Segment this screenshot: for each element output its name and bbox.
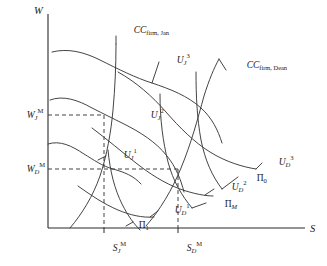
leader-u-jan-3 (152, 62, 159, 83)
label-pi-m: ΠM (208, 199, 249, 211)
svg-text:Π1: Π1 (122, 220, 161, 232)
cc-jan-sub: firm, Jan (146, 29, 170, 36)
ujan1-sub: J (131, 154, 135, 161)
label-pi-1: Π1 (122, 220, 161, 232)
wjm-sup: M (37, 107, 43, 114)
cc-dean-base: CC (247, 60, 260, 70)
svg-text:CCfirm, Dean: CCfirm, Dean (230, 60, 299, 72)
x-tick-label-sjm: SJM (96, 238, 138, 254)
sjm-sup: M (120, 240, 126, 247)
wdm-sub: D (34, 168, 40, 175)
curve-u-dean-2 (92, 128, 213, 196)
svg-text:UJ3: UJ3 (160, 50, 202, 66)
svg-text:SJM: SJM (96, 238, 138, 254)
svg-text:UD3: UD3 (262, 152, 305, 168)
leader-cc-firm-dean (219, 59, 226, 70)
svg-text:UJ2: UJ2 (134, 105, 176, 121)
y-axis-label: W (34, 5, 44, 16)
ujan1-sup: 1 (133, 147, 136, 154)
sdm-sup: M (196, 240, 202, 247)
ujan2-sup: 2 (160, 107, 163, 114)
curve-cc-firm-jan (70, 44, 116, 228)
label-u-dean-1: UD1 (158, 200, 201, 216)
wjm-sub: J (35, 114, 39, 121)
pi0-sub: 0 (264, 177, 268, 184)
x-axis-label: S (310, 223, 316, 234)
svg-text:CCfirm, Jan: CCfirm, Jan (117, 25, 181, 37)
label-u-dean-3: UD3 (262, 152, 305, 168)
ujan3-sup: 3 (186, 52, 190, 59)
leader-u-dean-2 (205, 189, 214, 195)
ujan3-sub: J (184, 59, 188, 66)
udean1-sub: D (181, 209, 187, 216)
label-cc-firm-dean: CCfirm, Dean (230, 60, 299, 72)
svg-text:UD1: UD1 (158, 200, 201, 216)
diagram-canvas: W S WJM WDM SJM SDM CCfirm, Jan CCfirm, … (0, 0, 327, 266)
y-tick-label-wdm: WDM (10, 159, 57, 175)
x-tick-label-sdm: SDM (170, 238, 214, 254)
svg-text:WDM: WDM (10, 159, 57, 175)
dean-indifference-curves-group (78, 72, 256, 217)
cc-dean-sub: firm, Dean (259, 64, 287, 71)
udean2-sub: D (238, 186, 244, 193)
udean1-sup: 1 (186, 202, 189, 209)
pim-sub: M (231, 203, 238, 210)
label-u-jan-1: UJ1 (107, 145, 149, 161)
svg-text:SDM: SDM (170, 238, 214, 254)
udean3-sub: D (285, 161, 291, 168)
pi1-sub: 1 (146, 224, 149, 231)
label-u-jan-3: UJ3 (160, 50, 202, 66)
svg-text:UJ1: UJ1 (107, 145, 149, 161)
axes-group (48, 14, 305, 228)
curve-pi-0 (196, 72, 222, 189)
label-cc-firm-jan: CCfirm, Jan (117, 25, 181, 37)
curve-u-jan-1 (48, 143, 141, 184)
svg-text:ΠM: ΠM (208, 199, 249, 211)
diagram-svg: W S WJM WDM SJM SDM CCfirm, Jan CCfirm, … (0, 0, 327, 266)
cc-jan-base: CC (134, 25, 147, 35)
wdm-sup: M (39, 161, 45, 168)
sdm-sub: D (190, 247, 196, 254)
sjm-sub: J (117, 247, 121, 254)
label-u-jan-2: UJ2 (134, 105, 176, 121)
udean3-sup: 3 (290, 154, 294, 161)
